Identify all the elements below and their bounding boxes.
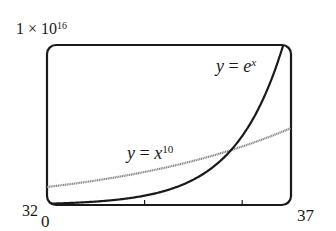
label-exponent: x xyxy=(251,56,256,68)
y-max-base: 1 × 10 xyxy=(16,20,57,37)
label-equals: = xyxy=(135,143,154,163)
label-equals: = xyxy=(224,56,243,76)
label-y: y xyxy=(216,56,224,76)
curve-label-x-pow-10: y = x10 xyxy=(127,144,173,162)
label-base: e xyxy=(243,56,251,76)
y-axis-max-label: 1 × 1016 xyxy=(16,21,67,37)
y-axis-min-label: 0 xyxy=(41,213,50,230)
curve-label-exp: y = ex xyxy=(216,57,256,75)
label-base: x xyxy=(154,143,162,163)
x-axis-max-label: 37 xyxy=(297,207,314,224)
y-max-exponent: 16 xyxy=(57,20,67,31)
x-axis-min-label: 32 xyxy=(22,203,38,219)
label-exponent: 10 xyxy=(162,143,173,155)
label-y: y xyxy=(127,143,135,163)
